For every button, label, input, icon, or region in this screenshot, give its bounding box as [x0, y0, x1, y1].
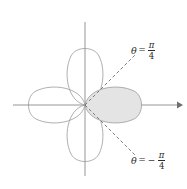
fraction-numerator-negative: π	[158, 151, 166, 160]
label-positive-expression: θ = π 4	[131, 41, 155, 60]
fraction-numerator-positive: π	[148, 41, 156, 50]
minus-symbol-negative: −	[147, 156, 156, 165]
fraction-denominator-negative: 4	[158, 161, 165, 170]
equals-symbol-negative: =	[138, 156, 146, 165]
fraction-pi-over-4-negative: π 4	[158, 151, 166, 170]
theta-symbol-positive: θ	[131, 46, 137, 56]
equals-symbol-positive: =	[138, 46, 146, 55]
right-petal-shaded-region	[85, 87, 142, 123]
polar-rose-figure: θ = π 4 θ = − π 4	[0, 0, 187, 189]
theta-symbol-negative: θ	[131, 156, 137, 166]
label-theta-positive-pi-over-4: θ = π 4	[131, 41, 155, 60]
label-theta-negative-pi-over-4: θ = − π 4	[131, 151, 165, 170]
x-axis-arrowhead-icon	[177, 102, 183, 109]
fraction-pi-over-4-positive: π 4	[148, 41, 156, 60]
label-negative-expression: θ = − π 4	[131, 151, 165, 170]
fraction-denominator-positive: 4	[148, 51, 155, 60]
